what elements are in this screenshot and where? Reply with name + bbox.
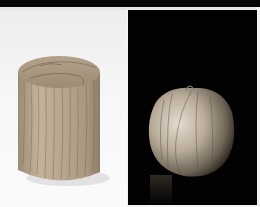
photo-panel-wooden-apple [128,10,257,205]
wooden-cylinder-image [0,10,127,207]
photo-panel-wooden-cylinder [0,10,127,207]
apple-body [149,88,234,177]
right-edge [257,7,260,207]
reflection [150,175,172,205]
cylinder-top [18,56,100,88]
top-black-bar [0,0,260,7]
wooden-apple-image [128,10,257,205]
